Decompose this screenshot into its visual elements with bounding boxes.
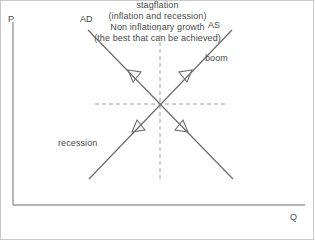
diagram-screenshot: P Q AD AS stagflation (inflation and rec… — [0, 0, 315, 241]
axes-group — [13, 22, 305, 205]
ad-as-diagram-canvas — [0, 0, 315, 241]
as-curve-label: AS — [208, 20, 220, 31]
y-axis-label: P — [8, 14, 14, 25]
boom-label: boom — [205, 53, 228, 64]
ad-curve-label: AD — [80, 14, 93, 25]
x-axis-label: Q — [290, 212, 297, 223]
ad-arrowhead-upper — [128, 70, 141, 82]
as-arrowhead-upper — [179, 70, 192, 82]
as-arrowhead-lower — [132, 120, 145, 132]
recession-label: recession — [58, 138, 97, 149]
